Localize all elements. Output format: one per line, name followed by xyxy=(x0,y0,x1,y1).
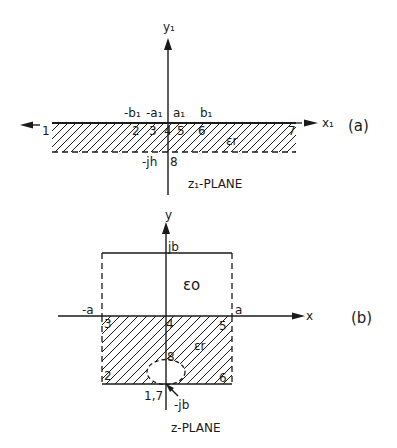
epsilon-o-label: εo xyxy=(183,276,200,294)
figure-b: y x jb -a a εo εr 3 4 5 2 6 8 1,7 -jb z-… xyxy=(34,208,372,435)
hatch-line xyxy=(286,316,354,384)
left-arrow-icon xyxy=(20,122,33,129)
hatch-line xyxy=(250,316,318,384)
point-3-b: 3 xyxy=(104,317,112,331)
hatch-line xyxy=(87,123,116,152)
hatch-line xyxy=(63,123,92,152)
point-6-a: 6 xyxy=(198,124,206,138)
y-axis-arrow-icon xyxy=(162,222,170,234)
hatch-line xyxy=(196,316,264,384)
y1-axis-label: y₁ xyxy=(163,20,175,34)
label-a1: a₁ xyxy=(173,106,185,120)
y-axis-label: y xyxy=(165,208,172,222)
point-8-a: 8 xyxy=(170,155,178,169)
point-3-a: 3 xyxy=(149,124,157,138)
minus-jb-label: -jb xyxy=(174,398,189,412)
hatch-line xyxy=(34,316,102,384)
jb-label: jb xyxy=(167,240,179,254)
minus-a-label: -a xyxy=(82,303,94,317)
point-8-b: 8 xyxy=(167,350,175,364)
hatch-line xyxy=(295,123,324,152)
label-minus-b1: -b₁ xyxy=(124,106,141,120)
conformal-mapping-diagram: y₁ x₁ -b₁ -a₁ a₁ b₁ 1 2 3 4 5 6 7 εr -jh… xyxy=(0,0,397,448)
hatch-line xyxy=(247,123,276,152)
hatch-line xyxy=(223,316,291,384)
point-2-a: 2 xyxy=(132,124,140,138)
a-label: a xyxy=(235,303,242,317)
point-4-b: 4 xyxy=(166,317,174,331)
figure-a: y₁ x₁ -b₁ -a₁ a₁ b₁ 1 2 3 4 5 6 7 εr -jh… xyxy=(20,20,369,195)
hatch-line xyxy=(43,316,111,384)
x-axis-arrow-icon xyxy=(292,313,305,320)
hatch-line xyxy=(255,123,284,152)
hatch-line xyxy=(79,316,147,384)
hatched-dielectric-region-a xyxy=(23,123,348,152)
point-6-b: 6 xyxy=(219,371,227,385)
epsilon-r-label-a: εr xyxy=(226,134,237,148)
x1-axis-arrow-icon xyxy=(304,120,318,127)
hatch-line xyxy=(103,123,132,152)
hatch-line xyxy=(95,123,124,152)
hatch-line xyxy=(259,316,327,384)
hatch-line xyxy=(277,316,345,384)
hatch-line xyxy=(47,123,76,152)
depth-label: -jh xyxy=(142,155,157,169)
hatch-line xyxy=(88,316,156,384)
point-4-a: 4 xyxy=(164,124,172,138)
hatch-line xyxy=(268,316,336,384)
z1-plane-label: z₁-PLANE xyxy=(188,177,242,191)
hatch-line xyxy=(241,316,309,384)
hatch-line xyxy=(205,316,273,384)
label-b1: b₁ xyxy=(200,106,213,120)
x-axis-label: x xyxy=(306,309,313,323)
z-plane-label: z-PLANE xyxy=(171,421,221,435)
point-2-b: 2 xyxy=(104,369,112,383)
x1-axis-label: x₁ xyxy=(322,116,334,130)
caption-a: (a) xyxy=(348,117,369,135)
hatch-line xyxy=(232,316,300,384)
label-minus-a1: -a₁ xyxy=(146,106,163,120)
hatch-line xyxy=(79,123,108,152)
y1-axis-arrow-icon xyxy=(164,38,172,50)
hatch-line xyxy=(178,316,246,384)
epsilon-r-label-b: εr xyxy=(194,339,205,353)
hatch-line xyxy=(271,123,300,152)
point-1-7-label: 1,7 xyxy=(144,389,163,403)
hatch-line xyxy=(61,316,129,384)
point-5-b: 5 xyxy=(219,319,227,333)
point-5-a: 5 xyxy=(177,124,185,138)
hatch-line xyxy=(55,123,84,152)
caption-b: (b) xyxy=(351,309,372,327)
point-1-a: 1 xyxy=(42,124,50,138)
hatch-line xyxy=(71,123,100,152)
hatch-line xyxy=(239,123,268,152)
point-7-a: 7 xyxy=(288,124,296,138)
